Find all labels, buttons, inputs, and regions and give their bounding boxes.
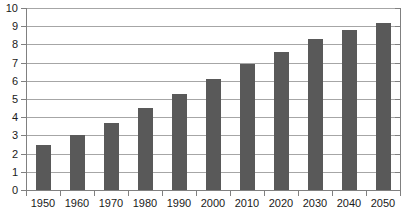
bar bbox=[138, 108, 153, 190]
y-axis-tick-mark-right bbox=[395, 117, 401, 118]
bar bbox=[308, 39, 323, 190]
bar bbox=[274, 52, 289, 190]
y-axis-tick-mark bbox=[21, 8, 27, 9]
y-axis-tick-mark bbox=[21, 154, 27, 155]
bar bbox=[70, 135, 85, 190]
plot-area bbox=[26, 8, 400, 190]
y-axis-tick-label: 4 bbox=[0, 112, 18, 123]
x-axis-tick-mark bbox=[264, 191, 265, 196]
bar bbox=[104, 123, 119, 190]
y-axis-tick-mark-right bbox=[395, 135, 401, 136]
bar bbox=[376, 23, 391, 190]
y-axis-tick-mark bbox=[21, 172, 27, 173]
x-axis-tick-label: 2050 bbox=[363, 198, 403, 209]
bar bbox=[172, 94, 187, 190]
x-axis-tick-mark bbox=[400, 191, 401, 196]
x-axis-tick-mark bbox=[128, 191, 129, 196]
x-axis-line bbox=[26, 190, 401, 191]
x-axis-tick-mark bbox=[162, 191, 163, 196]
y-axis-tick-mark-right bbox=[395, 81, 401, 82]
x-axis-tick-mark bbox=[332, 191, 333, 196]
y-axis-tick-mark bbox=[21, 26, 27, 27]
y-axis-tick-mark-right bbox=[395, 8, 401, 9]
y-axis-tick-label: 7 bbox=[0, 58, 18, 69]
bar bbox=[206, 79, 221, 190]
y-axis-tick-label: 3 bbox=[0, 130, 18, 141]
y-axis-tick-label: 10 bbox=[0, 3, 18, 14]
y-axis-tick-mark bbox=[21, 44, 27, 45]
bar bbox=[342, 30, 357, 190]
y-axis-tick-mark-right bbox=[395, 63, 401, 64]
y-axis-tick-label: 2 bbox=[0, 149, 18, 160]
gridline bbox=[26, 8, 400, 9]
x-axis-tick-mark bbox=[366, 191, 367, 196]
y-axis-tick-mark bbox=[21, 117, 27, 118]
y-axis-tick-mark-right bbox=[395, 99, 401, 100]
y-axis-tick-mark-right bbox=[395, 26, 401, 27]
x-axis-tick-mark bbox=[230, 191, 231, 196]
x-axis-tick-mark bbox=[298, 191, 299, 196]
y-axis-tick-label: 6 bbox=[0, 76, 18, 87]
x-axis-tick-mark bbox=[196, 191, 197, 196]
y-axis-tick-mark bbox=[21, 135, 27, 136]
y-axis-tick-mark-right bbox=[395, 172, 401, 173]
y-axis-tick-mark-right bbox=[395, 44, 401, 45]
bar bbox=[240, 64, 255, 190]
y-axis-tick-label: 9 bbox=[0, 21, 18, 32]
gridline bbox=[26, 26, 400, 27]
y-axis-tick-mark bbox=[21, 99, 27, 100]
bar-chart: 012345678910 195019601970198019902000201… bbox=[0, 0, 408, 215]
x-axis-tick-mark bbox=[26, 191, 27, 196]
y-axis-tick-mark-right bbox=[395, 154, 401, 155]
y-axis-tick-label: 5 bbox=[0, 94, 18, 105]
x-axis-tick-mark bbox=[60, 191, 61, 196]
y-axis-tick-mark bbox=[21, 63, 27, 64]
y-axis-tick-label: 8 bbox=[0, 39, 18, 50]
y-axis-tick-label: 0 bbox=[0, 185, 18, 196]
bar bbox=[36, 145, 51, 191]
y-axis-tick-label: 1 bbox=[0, 167, 18, 178]
y-axis-tick-mark bbox=[21, 81, 27, 82]
x-axis-tick-mark bbox=[94, 191, 95, 196]
